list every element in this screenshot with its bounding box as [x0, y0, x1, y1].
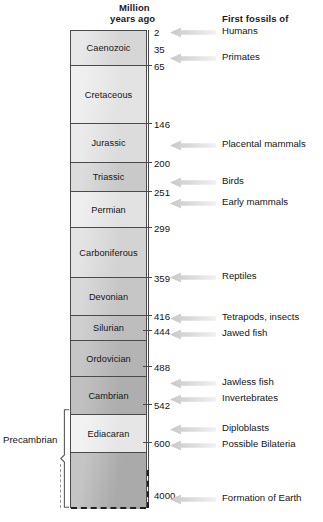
axis-tick [143, 366, 152, 367]
fossil-event-label: Birds [222, 175, 244, 186]
axis-tick-label: 35 [154, 45, 165, 55]
period-name: Triassic [93, 172, 125, 182]
fossil-event-label: Formation of Earth [222, 492, 301, 503]
period-name: Cambrian [88, 391, 128, 401]
fossil-arrow-icon [170, 272, 216, 282]
fossil-arrow-icon [170, 27, 216, 37]
period-band-silurian[interactable]: Silurian [71, 316, 146, 341]
axis-tick-label: 200 [154, 159, 170, 169]
axis-tick [143, 404, 152, 405]
fossil-event-label: Primates [222, 51, 260, 62]
period-name: Jurassic [91, 138, 125, 148]
fossil-arrow-icon [170, 177, 216, 187]
axis-tick [143, 162, 152, 163]
axis-tick [143, 315, 152, 316]
time-axis-line [148, 30, 149, 508]
axis-dashed-segment [147, 470, 149, 508]
axis-tick [143, 442, 152, 443]
period-band-triassic[interactable]: Triassic [71, 163, 146, 192]
period-band-caenozoic[interactable]: Caenozoic [71, 31, 146, 66]
period-band-ordovician[interactable]: Ordovician [71, 341, 146, 377]
period-band-cambrian[interactable]: Cambrian [71, 377, 146, 415]
period-name: Cretaceous [85, 90, 132, 100]
fossil-event-label: Humans [222, 25, 258, 36]
period-band-devonian[interactable]: Devonian [71, 278, 146, 316]
axis-tick-label: 251 [154, 188, 170, 198]
period-name: Permian [91, 205, 126, 215]
period-name: Devonian [89, 292, 128, 302]
axis-tick-label: 444 [154, 327, 170, 337]
axis-tick [143, 123, 152, 124]
period-name: Caenozoic [87, 43, 131, 53]
header-million: Million [119, 2, 150, 13]
axis-tick-label: 542 [154, 401, 170, 411]
axis-tick-label: 299 [154, 224, 170, 234]
axis-tick-label: 146 [154, 120, 170, 130]
fossil-arrow-icon [170, 440, 216, 450]
period-band-cretaceous[interactable]: Cretaceous [71, 66, 146, 124]
axis-tick-label: 359 [154, 274, 170, 284]
fossil-event-label: Early mammals [222, 196, 288, 207]
precambrian-bracket [60, 409, 70, 508]
period-band-carboniferous[interactable]: Carboniferous [71, 228, 146, 278]
fossil-arrow-icon [170, 329, 216, 339]
period-band-precambrian-basement[interactable] [71, 453, 146, 509]
basement-dashed-edge [60, 464, 61, 508]
fossil-arrow-icon [170, 424, 216, 434]
axis-tick-label: 600 [154, 439, 170, 449]
fossil-event-label: Jawed fish [222, 327, 267, 338]
axis-tick [143, 330, 152, 331]
header-years-ago: years ago [110, 13, 155, 24]
header-first-fossils: First fossils of [222, 13, 289, 24]
fossil-event-label: Jawless fish [222, 376, 274, 387]
timescale-figure: Million years ago First fossils of Caeno… [0, 0, 323, 522]
fossil-arrow-icon [170, 198, 216, 208]
period-band-jurassic[interactable]: Jurassic [71, 124, 146, 163]
axis-tick [143, 227, 152, 228]
axis-tick-label: 2 [154, 28, 159, 38]
period-band-permian[interactable]: Permian [71, 192, 146, 228]
axis-tick [143, 65, 152, 66]
fossil-event-label: Reptiles [222, 270, 257, 281]
fossil-event-label: Placental mammals [222, 138, 306, 149]
period-band-ediacaran[interactable]: Ediacaran [71, 415, 146, 453]
fossil-event-label: Invertebrates [222, 392, 278, 403]
geological-column: CaenozoicCretaceousJurassicTriassicPermi… [70, 30, 147, 508]
fossil-arrow-icon [170, 394, 216, 404]
period-name: Carboniferous [79, 248, 137, 258]
fossil-arrow-icon [170, 494, 216, 504]
fossil-event-label: Diploblasts [222, 422, 269, 433]
period-name: Ordovician [86, 354, 130, 364]
precambrian-label: Precambrian [3, 434, 57, 445]
period-name: Ediacaran [88, 429, 130, 439]
fossil-arrow-icon [170, 378, 216, 388]
axis-tick-label: 416 [154, 312, 170, 322]
axis-tick-label: 488 [154, 363, 170, 373]
axis-tick [143, 191, 152, 192]
axis-tick [143, 277, 152, 278]
axis-tick-label: 65 [154, 62, 165, 72]
fossil-arrow-icon [170, 313, 216, 323]
fossil-arrow-icon [170, 53, 216, 63]
fossil-arrow-icon [170, 140, 216, 150]
fossil-event-label: Tetrapods, insects [222, 311, 299, 322]
period-name: Silurian [93, 323, 124, 333]
fossil-event-label: Possible Bilateria [222, 438, 296, 449]
